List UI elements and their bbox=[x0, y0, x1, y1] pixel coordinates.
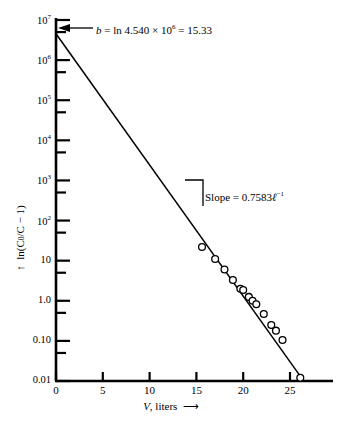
y-axis-ticks bbox=[56, 20, 70, 381]
y-tick-label: 1.0 bbox=[0, 295, 51, 306]
y-tick-label: 104 bbox=[0, 134, 51, 146]
x-tick-label: 10 bbox=[135, 385, 165, 396]
intercept-annotation: b = ln 4.540 × 106 = 15.33 bbox=[96, 23, 212, 36]
y-tick-label: 107 bbox=[0, 14, 51, 26]
data-points bbox=[199, 244, 304, 382]
x-axis-title: V, liters ⟶ bbox=[56, 400, 286, 413]
slope-equals: = bbox=[230, 191, 242, 203]
intercept-leader-arrow bbox=[58, 24, 93, 32]
data-point bbox=[253, 301, 260, 308]
y-tick-label: 102 bbox=[0, 215, 51, 227]
data-point bbox=[199, 244, 206, 251]
slope-unit-exponent: −1 bbox=[277, 190, 284, 198]
data-point bbox=[230, 277, 237, 284]
data-point bbox=[279, 337, 286, 344]
data-point bbox=[260, 311, 267, 318]
y-tick-label: 0.10 bbox=[0, 335, 51, 346]
intercept-value: = 15.33 bbox=[175, 24, 211, 36]
data-point bbox=[212, 256, 219, 263]
y-tick-label: 106 bbox=[0, 54, 51, 66]
slope-value: 0.7583 bbox=[242, 191, 272, 203]
y-tick-label: 103 bbox=[0, 174, 51, 186]
x-tick-label: 0 bbox=[41, 385, 71, 396]
fit-line bbox=[56, 34, 303, 380]
y-axis-title-text: ln(C0/C − 1) bbox=[14, 205, 26, 260]
data-point bbox=[297, 374, 304, 381]
axis-lines bbox=[55, 18, 333, 381]
y-tick-label: 105 bbox=[0, 94, 51, 106]
slope-label: Slope bbox=[205, 191, 230, 203]
x-tick-label: 15 bbox=[181, 385, 211, 396]
slope-annotation: Slope = 0.7583ℓ−1 bbox=[205, 190, 284, 203]
data-point bbox=[268, 322, 275, 329]
data-point bbox=[221, 266, 228, 273]
x-tick-label: 20 bbox=[228, 385, 258, 396]
intercept-body: = ln 4.540 × 10 bbox=[102, 24, 172, 36]
y-tick-label: 0.01 bbox=[0, 375, 51, 386]
x-tick-label: 25 bbox=[275, 385, 305, 396]
y-tick-label: 10 bbox=[0, 255, 51, 266]
y-axis-arrow: ↑ bbox=[14, 265, 26, 271]
y-axis-title: ↑ ln(C0/C − 1) bbox=[14, 190, 26, 286]
slope-bracket bbox=[185, 180, 203, 206]
chart-canvas bbox=[0, 0, 341, 423]
data-point bbox=[273, 327, 280, 334]
x-axis-arrow: ⟶ bbox=[180, 400, 199, 412]
data-point bbox=[240, 287, 247, 294]
x-axis-ticks bbox=[56, 372, 290, 381]
x-tick-label: 5 bbox=[88, 385, 118, 396]
